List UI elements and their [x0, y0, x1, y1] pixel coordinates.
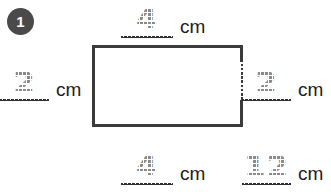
- problem-number-badge: 1: [7, 8, 34, 35]
- blank-bottom-side[interactable]: 4 cm: [121, 151, 205, 185]
- unit-label-right: cm: [291, 80, 323, 101]
- traced-digit-right: 2: [242, 67, 291, 98]
- blank-right-side[interactable]: 2 cm: [242, 67, 323, 101]
- traced-digit-top: 4: [121, 4, 173, 35]
- worksheet-canvas: 1 4 cm 2 cm 2 cm: [0, 0, 331, 192]
- traced-digit-bottom-wrap: 4: [121, 150, 173, 182]
- traced-digit-right-wrap: 2: [242, 66, 291, 98]
- blank-top-side[interactable]: 4 cm: [121, 4, 205, 38]
- answer-line-right[interactable]: 2: [242, 67, 291, 101]
- rectangle-figure: [92, 45, 243, 127]
- traced-digit-bottom: 4: [121, 151, 173, 182]
- answer-line-total[interactable]: 12: [242, 151, 291, 185]
- unit-label-left: cm: [49, 80, 81, 101]
- answer-line-left[interactable]: 2: [0, 67, 49, 101]
- answer-line-bottom[interactable]: 4: [121, 151, 173, 185]
- traced-digit-total: 12: [242, 151, 291, 182]
- answer-line-top[interactable]: 4: [121, 4, 173, 38]
- traced-digit-top-wrap: 4: [121, 3, 173, 35]
- unit-label-bottom: cm: [173, 164, 205, 185]
- unit-label-top: cm: [173, 17, 205, 38]
- traced-digit-total-wrap: 12: [242, 150, 291, 182]
- blank-perimeter-total[interactable]: 12 cm: [242, 151, 323, 185]
- traced-digit-left: 2: [0, 67, 49, 98]
- unit-label-total: cm: [291, 164, 323, 185]
- traced-digit-left-wrap: 2: [0, 66, 49, 98]
- blank-left-side[interactable]: 2 cm: [0, 67, 81, 101]
